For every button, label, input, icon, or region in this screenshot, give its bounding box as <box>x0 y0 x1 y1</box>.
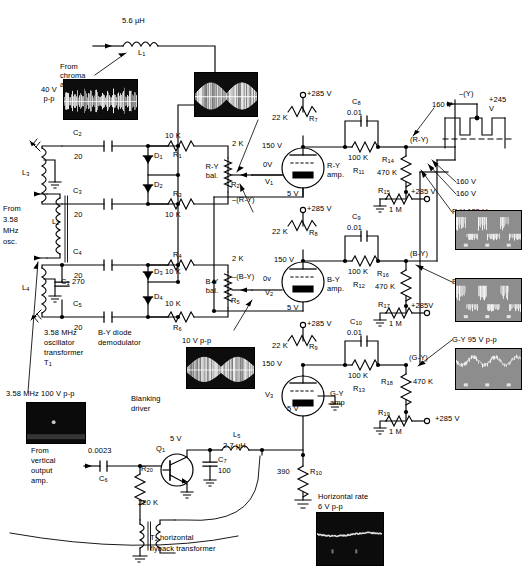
label-gy-95vpp: G-Y 95 V p-p <box>452 335 497 344</box>
label-160v-c: 160 V <box>456 189 476 198</box>
label-neg-y: –(Y) <box>459 89 474 98</box>
label-c9-value: 0.01 <box>347 223 362 232</box>
label-c7-value: 100 <box>218 466 231 475</box>
label-node-gy: (G-Y) <box>409 353 428 362</box>
label-150v-v1: 150 V <box>262 141 282 150</box>
label-plus285-v3: +285 V <box>307 319 332 328</box>
label-osc-358-caption: 3.58 MHz 100 V p-p <box>6 389 75 398</box>
by-output-waveform-photo <box>455 278 522 322</box>
label-c3-ref: C3 <box>73 186 82 197</box>
label-d1: D1 <box>154 151 163 162</box>
label-gy-amp: G-Y amp <box>330 389 345 407</box>
label-by-bal: B-Y bal. <box>199 277 225 295</box>
label-r9-ref: R9 <box>309 342 318 353</box>
label-r8-ref: R8 <box>309 228 318 239</box>
label-r15-supply: +285 V <box>411 187 436 196</box>
label-5v-v3: 5 V <box>287 404 299 413</box>
label-r9-value: 22 K <box>272 341 288 350</box>
label-ry-amp: R-Y amp. <box>327 161 344 179</box>
label-d4: D4 <box>154 292 163 303</box>
label-from-358-osc: From 3.58 MHz osc. <box>3 203 21 247</box>
osc-358-waveform-photo <box>26 402 86 444</box>
label-r19-supply: +285 V <box>435 414 460 423</box>
label-r7-value: 22 K <box>272 113 288 122</box>
label-c7-ref: C7 <box>218 455 227 466</box>
label-ry-bal: R-Y bal. <box>199 162 225 180</box>
label-t1-caption: 3.58 MHz oscillator transformer T1 <box>44 328 83 369</box>
label-r12-ref: R12 <box>353 280 365 291</box>
label-c8-ref: C8 <box>352 97 361 108</box>
label-c2-value: 20 <box>74 152 83 161</box>
by-input-waveform-photo <box>186 347 255 389</box>
label-c5-ref: C5 <box>73 299 82 310</box>
label-150v-v3: 150 V <box>262 359 282 368</box>
label-c9-ref: C9 <box>352 212 361 223</box>
label-t2-caption: T2 horizontal flyback transformer <box>150 533 216 554</box>
label-r3-value: 10 K <box>165 210 181 219</box>
label-node-by: (B-Y) <box>410 249 428 258</box>
schematic-sheet: 5.6 µH L1 From chroma amp 40 V p-p C2 20… <box>0 0 531 576</box>
label-r10-value: 390 <box>277 467 290 476</box>
label-r15-ref: R15 <box>378 186 390 197</box>
label-r16-ref: R16 <box>377 269 389 280</box>
chroma-waveform-photo <box>63 79 138 120</box>
label-r1-value: 10 K <box>165 131 181 140</box>
label-r13-value: 100 K <box>348 371 368 380</box>
label-l5-value: 2.7 µH <box>223 441 246 450</box>
label-neg-ry: –(R-Y) <box>232 195 255 204</box>
label-c4-ref: C4 <box>73 247 82 258</box>
label-c3-value: 20 <box>74 210 83 219</box>
label-horizontal-rate: Horizontal rate 6 V p-p <box>318 492 368 512</box>
label-neg-by: –(B-Y) <box>232 272 254 281</box>
label-0v-v2: 0v <box>263 274 271 283</box>
label-c10-value: 0.01 <box>347 328 362 337</box>
label-c10-ref: C10 <box>350 317 362 328</box>
label-l3-ref: L3 <box>22 168 30 179</box>
label-plus285-v2: +285 V <box>307 204 332 213</box>
label-r4-ref: R4 <box>173 250 182 261</box>
label-r19-value: 1 M <box>389 427 402 436</box>
label-r3-ref: R3 <box>173 189 182 200</box>
label-chroma-40vpp: 40 V p-p <box>36 85 62 103</box>
label-10vpp-bottom: 10 V p-p <box>182 336 211 345</box>
label-160v-b: 160 V <box>456 177 476 186</box>
label-r14-value: 470 K <box>377 168 397 177</box>
label-l2-ref: L2 <box>52 217 60 228</box>
label-r10-ref: R10 <box>310 467 322 478</box>
label-c6-ref: C6 <box>99 474 108 485</box>
label-r1-ref: R1 <box>173 150 182 161</box>
label-plus245v: +245 V <box>489 95 506 113</box>
label-r6-ref: R6 <box>173 323 182 334</box>
label-blanking-driver: Blanking driver <box>131 394 161 414</box>
label-node-ry: (R-Y) <box>410 135 428 144</box>
label-c8-value: 0.01 <box>347 108 362 117</box>
label-r4-value: 10 K <box>165 267 181 276</box>
label-r18-ref: R18 <box>381 377 393 388</box>
label-l1-ref: L1 <box>138 48 146 59</box>
label-d3: D3 <box>154 267 163 278</box>
label-5v-v2: 5 V <box>287 303 299 312</box>
label-l4-ref: L4 <box>22 283 30 294</box>
label-r11-ref: R11 <box>353 166 365 177</box>
label-r2-ref: R2 <box>231 180 240 191</box>
label-q1-5v: 5 V <box>170 434 182 443</box>
label-v3-ref: V3 <box>265 390 273 401</box>
label-r13-ref: R13 <box>353 384 365 395</box>
label-r14-ref: R14 <box>382 155 394 166</box>
ry-output-waveform-photo <box>455 210 522 250</box>
label-r15-value: 1 M <box>389 205 402 214</box>
label-d2: D2 <box>154 180 163 191</box>
label-q1-ref: Q1 <box>156 444 165 455</box>
label-r17-supply: +285V <box>411 301 433 310</box>
label-r20-value: 220 K <box>138 498 158 507</box>
label-c2-ref: C2 <box>73 128 82 139</box>
label-l1-value: 5.6 µH <box>122 16 145 25</box>
label-r12-value: 100 K <box>348 267 368 276</box>
label-r17-ref: R17 <box>378 300 390 311</box>
label-r6-value: 10 K <box>165 299 181 308</box>
label-r7-ref: R7 <box>309 114 318 125</box>
label-r20-ref: R20 <box>141 464 153 475</box>
label-by-demod-caption: B-Y diode demodulator <box>98 328 141 348</box>
label-r18-value: 470 K <box>413 377 433 386</box>
label-0v-v1: 0V <box>263 160 272 169</box>
